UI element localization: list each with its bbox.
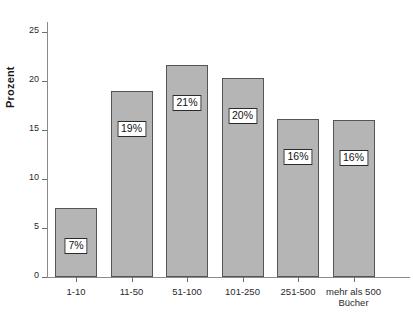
y-tick-label: 10 [29,172,39,182]
x-tick [76,277,77,282]
x-tick-label: 101-250 [225,286,260,297]
bar [333,120,375,277]
plot-area: 0510152025 7%19%21%20%16%16% 1-1011-5051… [47,22,410,277]
y-tick: 15 [42,130,47,131]
x-tick-label: 1-10 [66,286,85,297]
bar [111,91,153,277]
x-tick-label: 11-50 [120,286,144,297]
y-tick: 5 [42,228,47,229]
bar-value-label: 16% [283,149,312,165]
bar [277,119,319,277]
bar-chart: Prozent 0510152025 7%19%21%20%16%16% 1-1… [0,0,413,312]
bar-value-label: 19% [117,121,146,137]
y-tick-label: 0 [34,270,39,280]
bar-value-label: 7% [64,238,87,254]
x-tick [187,277,188,282]
y-tick: 20 [42,81,47,82]
y-tick-label: 20 [29,74,39,84]
x-axis-line [47,277,410,278]
y-axis-line [47,22,48,278]
x-tick [298,277,299,282]
x-tick-label: 51-100 [172,286,202,297]
y-tick: 0 [42,277,47,278]
bar-value-label: 21% [172,95,201,111]
y-axis-title-label: Prozent [4,92,16,108]
x-tick [354,277,355,282]
y-axis-title: Prozent [4,92,16,108]
x-tick [132,277,133,282]
y-tick: 25 [42,32,47,33]
x-tick-label: 251-500 [281,286,316,297]
y-tick: 10 [42,179,47,180]
y-tick-label: 15 [29,123,39,133]
y-tick-label: 5 [34,221,39,231]
y-tick-label: 25 [29,25,39,35]
bar-value-label: 20% [228,108,257,124]
bar-value-label: 16% [339,150,368,166]
x-tick [243,277,244,282]
x-tick-label: mehr als 500 Bücher [326,286,381,308]
